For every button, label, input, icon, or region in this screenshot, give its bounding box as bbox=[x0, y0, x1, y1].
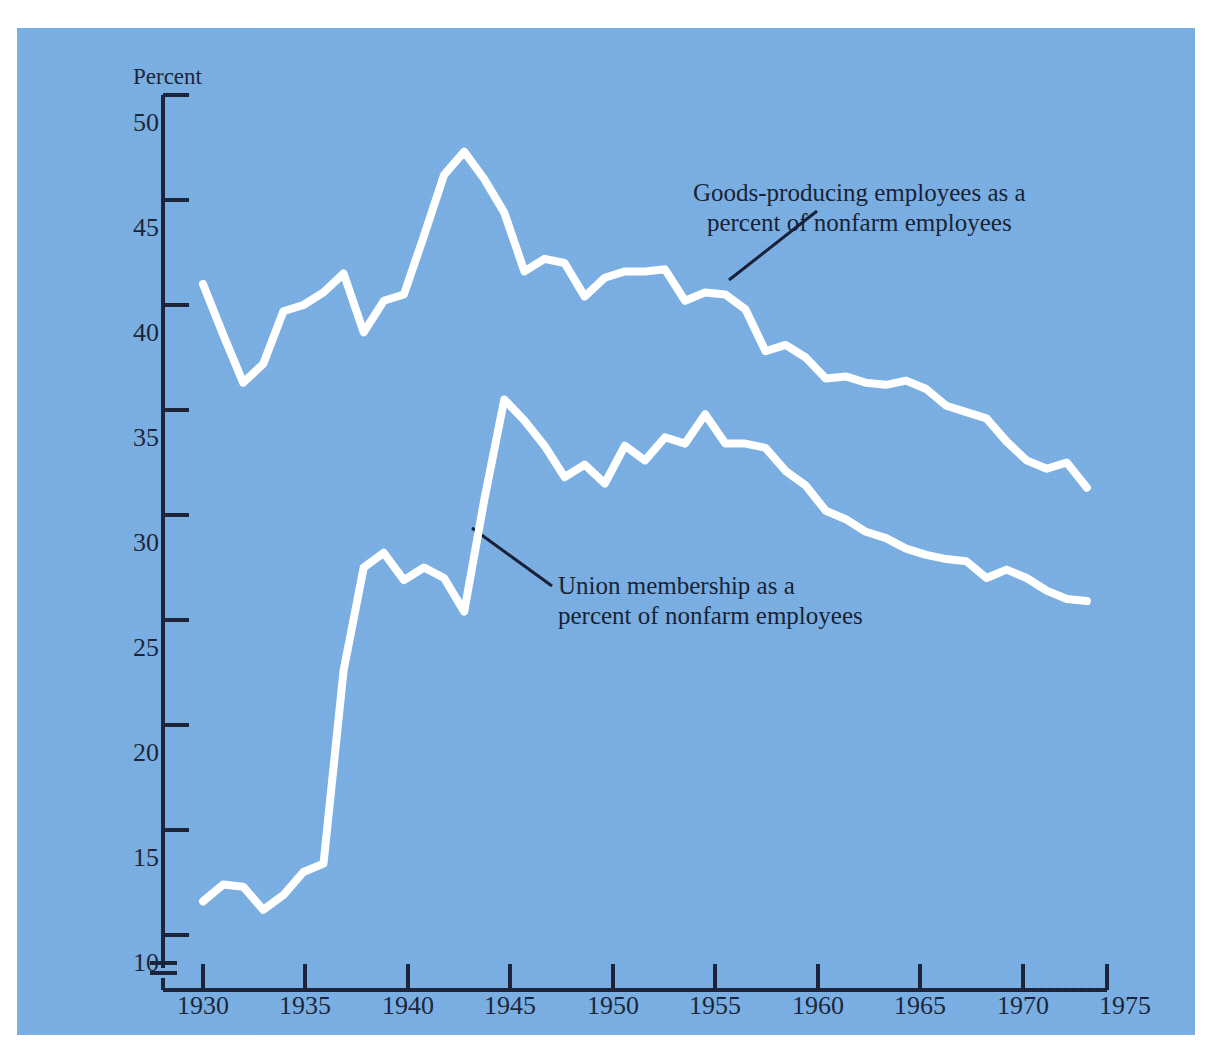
chart-figure: Percent 50 45 40 35 30 25 20 15 10 1930 … bbox=[0, 0, 1208, 1053]
plot-area bbox=[17, 28, 1195, 1035]
axis-lines bbox=[163, 95, 1107, 990]
chart-panel: Percent 50 45 40 35 30 25 20 15 10 1930 … bbox=[17, 28, 1195, 1035]
series-line-goods-producing bbox=[203, 152, 1087, 488]
leader-line-union bbox=[472, 528, 552, 586]
x-axis-ticks bbox=[203, 964, 1107, 990]
series-line-union-membership bbox=[203, 400, 1087, 910]
leader-line-goods bbox=[729, 211, 817, 280]
y-axis-ticks bbox=[163, 95, 189, 935]
